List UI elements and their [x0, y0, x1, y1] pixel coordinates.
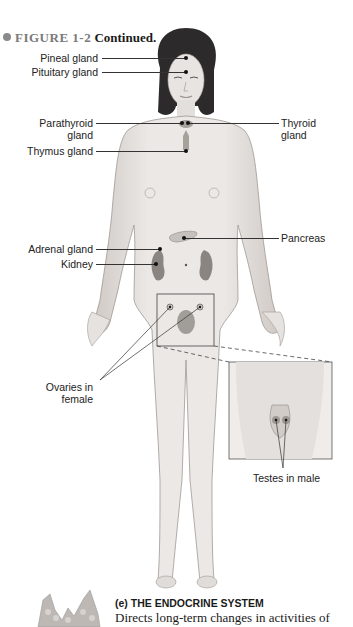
- label-parathyroid-line2: gland: [67, 129, 93, 141]
- label-thyroid-line1: Thyroid: [281, 117, 316, 129]
- figure-number: FIGURE 1-2: [15, 30, 91, 45]
- marker-kidney: [154, 262, 158, 266]
- label-thymus-gland: Thymus gland: [27, 145, 93, 157]
- caption-body: Directs long-term changes in activities …: [115, 610, 330, 626]
- label-ovaries-line2: female: [61, 393, 93, 405]
- endocrine-body-illustration: [0, 0, 353, 627]
- marker-pancreas: [182, 236, 186, 240]
- leader-thyroid: [188, 123, 279, 124]
- figure-title: Continued.: [94, 30, 156, 45]
- leader-kidney: [96, 264, 156, 265]
- leader-pituitary: [102, 72, 186, 73]
- leader-pineal: [102, 58, 186, 59]
- label-testes-in-male: Testes in male: [253, 472, 320, 484]
- thyroid-gland-icon: [38, 590, 100, 627]
- label-kidney: Kidney: [61, 258, 93, 270]
- label-thyroid-line2: gland: [281, 129, 307, 141]
- label-parathyroid-line1: Parathyroid: [39, 117, 93, 129]
- gray-circle-bullet-icon: [3, 33, 11, 41]
- leader-thymus: [96, 151, 186, 152]
- body-outline: [92, 116, 280, 582]
- marker-thymus: [184, 149, 188, 153]
- label-pancreas: Pancreas: [281, 232, 325, 244]
- label-adrenal-gland: Adrenal gland: [28, 243, 93, 255]
- leader-pancreas: [184, 238, 279, 239]
- marker-thyroid: [186, 121, 190, 125]
- leader-parathyroid: [96, 123, 182, 124]
- male-inset: [229, 362, 332, 459]
- marker-parathyroid: [180, 121, 184, 125]
- figure-header: FIGURE 1-2 Continued.: [3, 30, 156, 46]
- label-pineal-gland: Pineal gland: [40, 52, 98, 64]
- marker-pituitary: [184, 70, 188, 74]
- marker-adrenal: [158, 247, 162, 251]
- label-pituitary-gland: Pituitary gland: [31, 66, 98, 78]
- label-ovaries-line1: Ovaries in: [46, 381, 93, 393]
- leader-adrenal: [96, 249, 160, 250]
- caption-title: (e) THE ENDOCRINE SYSTEM: [115, 597, 264, 609]
- marker-pineal: [184, 56, 188, 60]
